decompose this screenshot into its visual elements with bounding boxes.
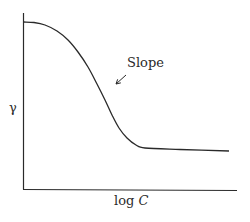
y-axis-label: γ: [9, 100, 17, 115]
data-curve: [24, 22, 229, 151]
chart-svg: Slope γ log C: [0, 0, 250, 222]
chart: Slope γ log C: [0, 0, 250, 222]
slope-arrow-icon: [116, 75, 126, 84]
x-axis-label: log C: [114, 193, 148, 208]
x-axis-label-variable: C: [138, 193, 148, 208]
x-axis: [23, 190, 237, 191]
x-axis-label-prefix: log: [114, 193, 138, 208]
slope-annotation: Slope: [127, 55, 164, 70]
